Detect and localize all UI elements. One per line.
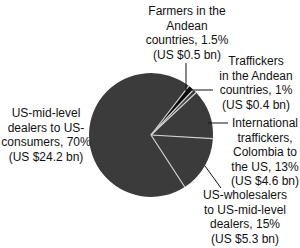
- label-line: in the Andean: [219, 69, 292, 84]
- label-line: (US $0.4 bn): [219, 98, 292, 113]
- label-line: Traffickers: [219, 54, 292, 69]
- leader-line-wholesalers: [205, 166, 221, 188]
- label-line: US-mid-level: [1, 106, 90, 121]
- label-line: dealers to US-: [1, 121, 90, 136]
- label-line: (US $0.5 bn): [146, 48, 229, 63]
- label-line: International: [231, 116, 299, 131]
- label-line: traffickers,: [231, 131, 299, 146]
- label-traffickers: Traffickersin the Andeancountries, 1%(US…: [219, 54, 292, 112]
- label-international: Internationaltraffickers,Colombia tothe …: [231, 116, 299, 189]
- label-line: Colombia to: [231, 145, 299, 160]
- label-line: consumers, 70%: [1, 135, 90, 150]
- label-us_mid_level: US-mid-leveldealers to US-consumers, 70%…: [1, 106, 90, 164]
- label-line: the US, 13%: [231, 160, 299, 175]
- label-line: countries, 1%: [219, 83, 292, 98]
- label-wholesalers: US-wholesalersto US-mid-leveldealers, 15…: [203, 188, 287, 246]
- label-line: (US $5.3 bn): [203, 232, 287, 247]
- pie-slices: [89, 73, 213, 197]
- label-line: dealers, 15%: [203, 217, 287, 232]
- label-line: Andean: [146, 19, 229, 34]
- label-farmers: Farmers in theAndeancountries, 1.5%(US $…: [146, 4, 229, 62]
- label-line: US-wholesalers: [203, 188, 287, 203]
- label-line: (US $4.6 bn): [231, 174, 299, 189]
- label-line: Farmers in the: [146, 4, 229, 19]
- label-line: (US $24.2 bn): [1, 150, 90, 165]
- label-line: countries, 1.5%: [146, 33, 229, 48]
- label-line: to US-mid-level: [203, 203, 287, 218]
